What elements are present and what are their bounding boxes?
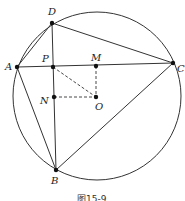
- point-N: [52, 95, 56, 99]
- label-P: P: [41, 53, 49, 64]
- point-D: [50, 21, 54, 25]
- point-A: [15, 65, 19, 69]
- point-M: [94, 64, 98, 68]
- figure-caption: 图15-9: [77, 194, 107, 201]
- label-O: O: [95, 101, 103, 112]
- point-C: [171, 61, 175, 65]
- label-M: M: [90, 52, 102, 63]
- segment-DC: [52, 23, 173, 63]
- label-C: C: [177, 63, 185, 74]
- point-O: [94, 95, 98, 99]
- segment-BC: [56, 63, 173, 170]
- geometry-figure: D A P M C N O B 图15-9: [0, 0, 185, 201]
- label-D: D: [47, 6, 56, 17]
- label-A: A: [4, 61, 12, 72]
- label-B: B: [50, 175, 58, 186]
- point-P: [51, 65, 55, 69]
- segment-PO: [53, 67, 96, 97]
- point-B: [54, 168, 58, 172]
- label-N: N: [39, 95, 50, 106]
